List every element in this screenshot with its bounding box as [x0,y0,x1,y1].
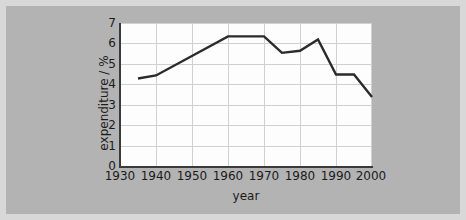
x-axis-title: year [120,189,372,203]
y-axis-line [119,23,121,168]
chart-screenshot: 7 6 5 4 3 2 1 0 expenditure / % [0,0,466,220]
series-polyline [138,36,372,97]
y-axis-title-wrap: expenditure / % [78,16,98,166]
x-tick-2000: 2000 [349,170,393,182]
figure-canvas: 7 6 5 4 3 2 1 0 expenditure / % [6,6,460,214]
y-axis-title: expenditure / % [97,33,111,173]
y-tick-7: 7 [100,17,116,29]
expenditure-line-series [120,23,372,167]
x-axis-line [119,166,373,168]
plot-area [120,23,372,167]
